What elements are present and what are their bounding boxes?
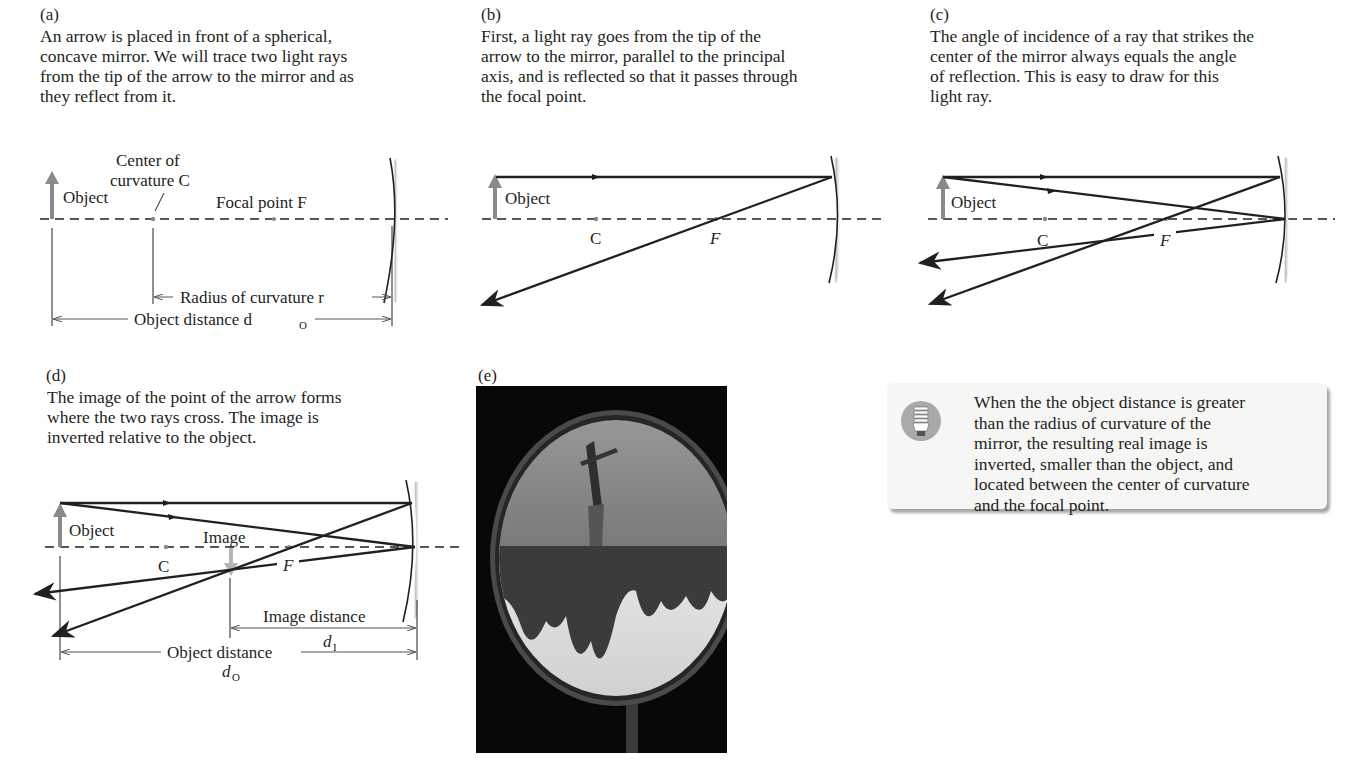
panel-a-diagram: Object Center of curvature C Focal point… [0, 0, 470, 340]
svg-text:F: F [709, 229, 721, 248]
panel-d-diagram: Object C Image F Image distance d I Obje… [25, 470, 475, 700]
svg-text:Image: Image [203, 528, 245, 547]
svg-text:d: d [323, 632, 332, 651]
svg-text:C: C [590, 229, 601, 248]
mirror-photo [476, 386, 727, 753]
svg-text:d: d [222, 662, 231, 681]
panel-c-diagram: Object C F F [900, 130, 1355, 330]
svg-text:O: O [232, 671, 240, 683]
panel-d-caption: The image of the point of the arrow form… [47, 387, 342, 447]
object-label: Object [63, 188, 109, 207]
svg-text:Radius of curvature r: Radius of curvature r [180, 288, 324, 307]
concave-mirror [403, 480, 413, 622]
svg-text:Object: Object [69, 521, 115, 540]
svg-text:C: C [158, 557, 169, 576]
svg-text:I: I [333, 641, 337, 653]
svg-text:curvature C: curvature C [110, 171, 190, 190]
lightbulb-icon [901, 401, 941, 441]
svg-text:F: F [1159, 231, 1171, 250]
key-concept-callout: When the the object distance is greater … [887, 383, 1327, 509]
panel-e-label: (e) [478, 366, 497, 386]
focal-point [272, 217, 276, 221]
svg-text:Object distance: Object distance [167, 643, 272, 662]
svg-text:Image distance: Image distance [263, 607, 365, 626]
panel-c-caption: The angle of incidence of a ray that str… [930, 26, 1254, 106]
center-reflected-ray [920, 219, 1285, 263]
panel-d-label: (d) [46, 366, 66, 386]
svg-text:Object distance d: Object distance d [134, 310, 253, 329]
svg-text:Center of: Center of [116, 151, 180, 170]
panel-b-caption: First, a light ray goes from the tip of … [481, 26, 797, 106]
svg-text:O: O [299, 319, 307, 331]
center-point [151, 217, 155, 221]
svg-text:Object: Object [505, 189, 551, 208]
svg-text:F: F [282, 556, 294, 575]
svg-text:Object: Object [951, 193, 997, 212]
panel-c-label: (c) [930, 5, 949, 25]
panel-b-diagram: Object C F [470, 130, 890, 330]
callout-text: When the the object distance is greater … [974, 392, 1319, 515]
svg-text:Focal point F: Focal point F [216, 193, 307, 212]
panel-b-label: (b) [481, 5, 501, 25]
